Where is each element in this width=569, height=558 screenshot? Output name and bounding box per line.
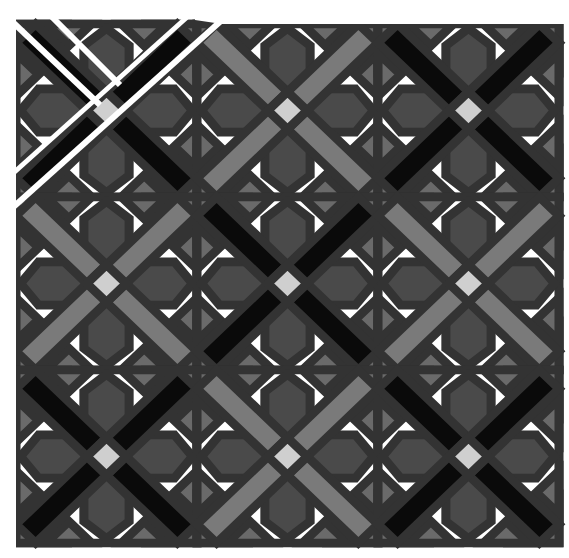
quilt-block-r0c2	[378, 24, 559, 197]
quilt-block-r2c1	[197, 370, 378, 543]
quilt-block-r2c2	[378, 370, 559, 543]
left-margin	[0, 0, 16, 558]
quilt-block-r1c0	[16, 197, 197, 370]
top-margin	[195, 0, 569, 24]
quilt-block-r0c1	[197, 24, 378, 197]
quilt-block-r1c1	[197, 197, 378, 370]
quilt-pattern	[0, 0, 569, 558]
quilt-block-r2c0	[16, 370, 197, 543]
quilt-block-r1c2	[378, 197, 559, 370]
